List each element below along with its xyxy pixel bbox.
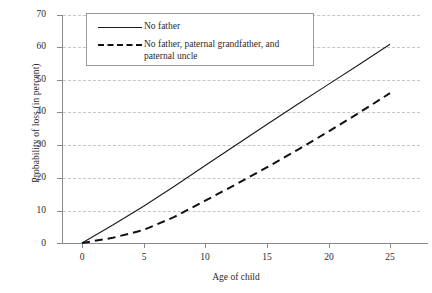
series-line-no-father-grandfather-uncle [82,93,390,243]
series-line-no-father [82,44,390,243]
legend-entry-no-father-grandfather-uncle: No father, paternal grandfather, and pat… [96,39,310,62]
y-axis-line [62,15,63,244]
legend-label: No father [144,21,180,33]
y-tick-label: 40 [16,107,46,117]
x-tick-label: 5 [129,252,159,262]
y-tick-label-group: 70 60 50 40 30 20 10 0 [14,0,46,293]
x-tick-mark [390,243,391,248]
gridline [63,80,420,81]
x-axis-title: Age of child [82,272,390,282]
y-tick-label: 20 [16,173,46,183]
legend-swatch-dashed-icon [96,40,144,52]
x-tick-mark [82,243,83,248]
gridline [63,112,420,113]
x-tick-label: 25 [375,252,405,262]
x-tick-label: 15 [252,252,282,262]
legend-entry-no-father: No father [96,21,180,34]
gridline [63,178,420,179]
x-tick-mark [267,243,268,248]
y-tick-label: 30 [16,140,46,150]
legend-swatch-solid-icon [96,22,144,34]
line-chart: Probability of loss (in percent) 70 60 5… [0,0,432,293]
y-tick-label: 70 [16,10,46,20]
x-tick-label: 0 [67,252,97,262]
gridline [63,211,420,212]
legend-label: No father, paternal grandfather, and pat… [144,39,310,62]
y-tick-label: 50 [16,75,46,85]
x-tick-label: 20 [314,252,344,262]
y-tick-label: 60 [16,42,46,52]
x-tick-mark [205,243,206,248]
y-tick-label: 10 [16,206,46,216]
y-tick-label: 0 [16,239,46,249]
x-tick-label: 10 [190,252,220,262]
x-axis-line [62,243,428,244]
gridline [63,145,420,146]
legend: No father No father, paternal grandfathe… [86,13,314,66]
x-tick-mark [329,243,330,248]
x-tick-mark [144,243,145,248]
